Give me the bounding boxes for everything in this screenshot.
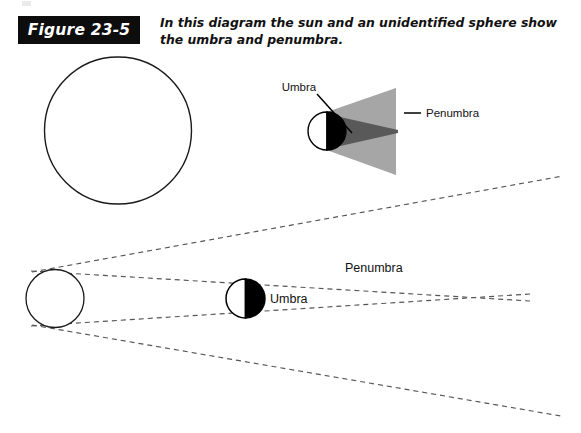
main-umbra-label: Umbra <box>270 292 308 306</box>
main-sun-circle <box>26 270 84 328</box>
figure-artwork: Umbra Penumbra <box>0 0 581 433</box>
inset-penumbra-label-text: Penumbra <box>426 107 480 119</box>
inset-umbra-label-text: Umbra <box>282 81 317 93</box>
large-sun-circle <box>45 57 192 204</box>
inset-umbra-label: Umbra <box>282 81 317 93</box>
inset-diagram: Umbra Penumbra <box>282 81 480 175</box>
figure-page: Figure 23-5 In this diagram the sun and … <box>0 0 581 433</box>
main-sphere-dark-half <box>246 279 265 318</box>
inset-penumbra-label: Penumbra <box>426 107 480 119</box>
inset-sphere-lit-half <box>308 112 327 150</box>
main-penumbra-label-text: Penumbra <box>345 261 403 275</box>
main-umbra-label-text: Umbra <box>270 292 308 306</box>
main-diagram: Penumbra Umbra <box>26 176 563 416</box>
ray-lower-outer <box>32 325 561 416</box>
main-sphere-lit-half <box>226 279 245 318</box>
main-penumbra-label: Penumbra <box>345 261 403 275</box>
